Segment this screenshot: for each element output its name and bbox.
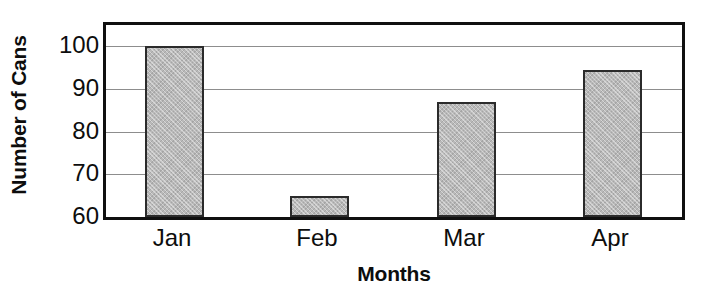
y-axis-title-label: Number of Cans <box>7 35 31 194</box>
bar-feb <box>290 196 349 217</box>
x-axis-tick-labels: Jan Feb Mar Apr <box>103 224 685 258</box>
x-tick-label-mar: Mar <box>419 224 509 252</box>
bar-chart-figure: Number of Cans 100 90 80 70 60 Jan Fe <box>0 0 701 296</box>
y-tick-label: 100 <box>59 33 99 57</box>
x-axis-title: Months <box>103 262 685 286</box>
y-axis-title: Number of Cans <box>0 0 38 230</box>
x-tick-label-apr: Apr <box>565 224 655 252</box>
y-tick-label: 60 <box>72 204 99 228</box>
x-tick-label-jan: Jan <box>127 224 217 252</box>
bar-apr <box>583 70 642 217</box>
bar-jan <box>145 46 204 217</box>
y-tick-label: 70 <box>72 161 99 185</box>
y-tick-label: 80 <box>72 119 99 143</box>
x-tick-label-feb: Feb <box>272 224 362 252</box>
bars-layer <box>106 25 682 217</box>
y-tick-label: 90 <box>72 76 99 100</box>
bar-mar <box>437 102 496 217</box>
y-axis-tick-labels: 100 90 80 70 60 <box>36 0 102 240</box>
plot-inner <box>106 25 682 217</box>
plot-area <box>103 22 685 220</box>
